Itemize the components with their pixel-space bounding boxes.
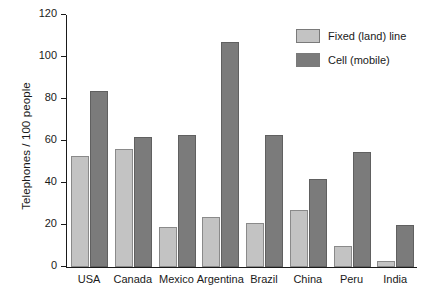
bar bbox=[178, 135, 196, 267]
y-tick-label: 80 bbox=[45, 91, 57, 103]
y-tick-label: 40 bbox=[45, 175, 57, 187]
bar bbox=[71, 156, 89, 267]
y-tick: 0 bbox=[61, 266, 66, 267]
bar-group: Mexico bbox=[157, 15, 201, 267]
legend-label: Fixed (land) line bbox=[328, 30, 406, 42]
bar bbox=[159, 227, 177, 267]
bar bbox=[309, 179, 327, 267]
legend-item: Fixed (land) line bbox=[296, 28, 428, 43]
y-tick: 80 bbox=[61, 98, 66, 99]
bar-group: Canada bbox=[113, 15, 157, 267]
y-tick: 60 bbox=[61, 140, 66, 141]
x-axis-label: India bbox=[365, 273, 425, 285]
bar-chart: Telephones / 100 people 020406080100120 … bbox=[0, 0, 432, 304]
y-tick-label: 60 bbox=[45, 133, 57, 145]
y-tick-label: 0 bbox=[51, 259, 57, 271]
bar bbox=[90, 91, 108, 267]
bar bbox=[202, 217, 220, 267]
bar bbox=[290, 210, 308, 267]
bar bbox=[353, 152, 371, 268]
y-tick-label: 100 bbox=[39, 49, 57, 61]
bar-group: Argentina bbox=[200, 15, 244, 267]
bar bbox=[115, 149, 133, 267]
bar bbox=[265, 135, 283, 267]
y-tick: 120 bbox=[61, 14, 66, 15]
chart-legend: Fixed (land) lineCell (mobile) bbox=[296, 28, 428, 76]
y-tick: 20 bbox=[61, 224, 66, 225]
x-axis-line bbox=[66, 267, 417, 268]
bar bbox=[377, 261, 395, 267]
y-axis-line bbox=[66, 15, 67, 267]
bar bbox=[134, 137, 152, 267]
legend-swatch bbox=[296, 29, 320, 43]
y-axis-title: Telephones / 100 people bbox=[20, 46, 32, 246]
y-tick: 100 bbox=[61, 56, 66, 57]
bar-group: USA bbox=[69, 15, 113, 267]
legend-swatch bbox=[296, 53, 320, 67]
bar bbox=[246, 223, 264, 267]
y-tick-label: 20 bbox=[45, 217, 57, 229]
bar bbox=[396, 225, 414, 267]
y-tick-label: 120 bbox=[39, 7, 57, 19]
bar-group: Brazil bbox=[244, 15, 288, 267]
bar bbox=[221, 42, 239, 267]
legend-label: Cell (mobile) bbox=[328, 54, 390, 66]
y-tick: 40 bbox=[61, 182, 66, 183]
bar bbox=[334, 246, 352, 267]
legend-item: Cell (mobile) bbox=[296, 52, 428, 67]
